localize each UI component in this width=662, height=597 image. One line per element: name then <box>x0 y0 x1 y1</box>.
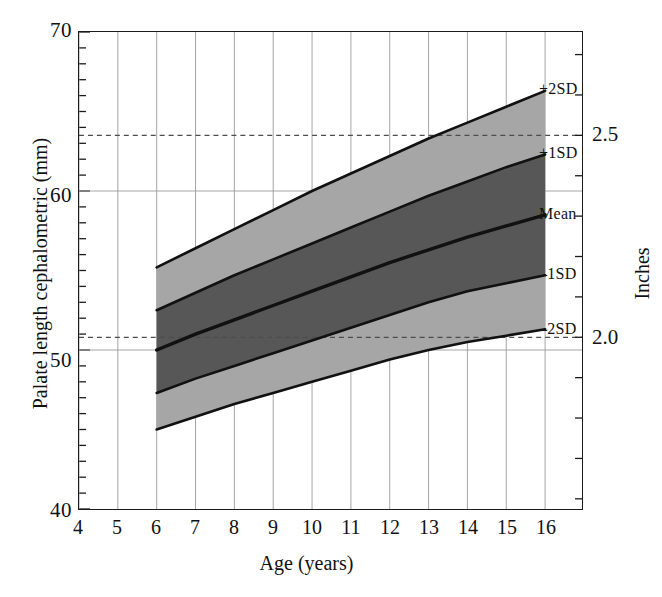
x-tick-13: 13 <box>409 516 449 538</box>
curve-label-minus-1sd: –1SD <box>539 266 577 282</box>
x-tick-5: 5 <box>97 516 137 538</box>
x-tick-8: 8 <box>214 516 254 538</box>
x-tick-14: 14 <box>448 516 488 538</box>
x-tick-10: 10 <box>292 516 332 538</box>
x-axis-title: Age (years) <box>78 552 535 575</box>
palate-length-growth-chart: 70 60 50 40 Palate length cephalometric … <box>0 0 662 597</box>
x-tick-11: 11 <box>331 516 371 538</box>
chart-canvas <box>79 32 582 509</box>
x-tick-4: 4 <box>58 516 98 538</box>
y-tick-70: 70 <box>32 20 72 41</box>
y2-tick-2-0: 2.0 <box>592 327 618 348</box>
curve-label-mean: Mean <box>539 206 577 222</box>
x-tick-7: 7 <box>175 516 215 538</box>
y2-tick-2-5: 2.5 <box>592 124 618 145</box>
plot-area <box>78 31 583 510</box>
curve-label-plus-2sd: +2SD <box>539 81 578 97</box>
y-axis-minor-ticks <box>79 32 90 509</box>
curve-label-minus-2sd: –2SD <box>539 321 577 337</box>
y2-axis-title: Inches <box>631 154 654 394</box>
x-tick-9: 9 <box>253 516 293 538</box>
x-tick-6: 6 <box>136 516 176 538</box>
curve-label-plus-1sd: +1SD <box>539 145 578 161</box>
y-axis-title: Palate length cephalometric (mm) <box>29 114 52 434</box>
x-tick-12: 12 <box>370 516 410 538</box>
x-tick-15: 15 <box>487 516 527 538</box>
x-tick-16: 16 <box>526 516 566 538</box>
